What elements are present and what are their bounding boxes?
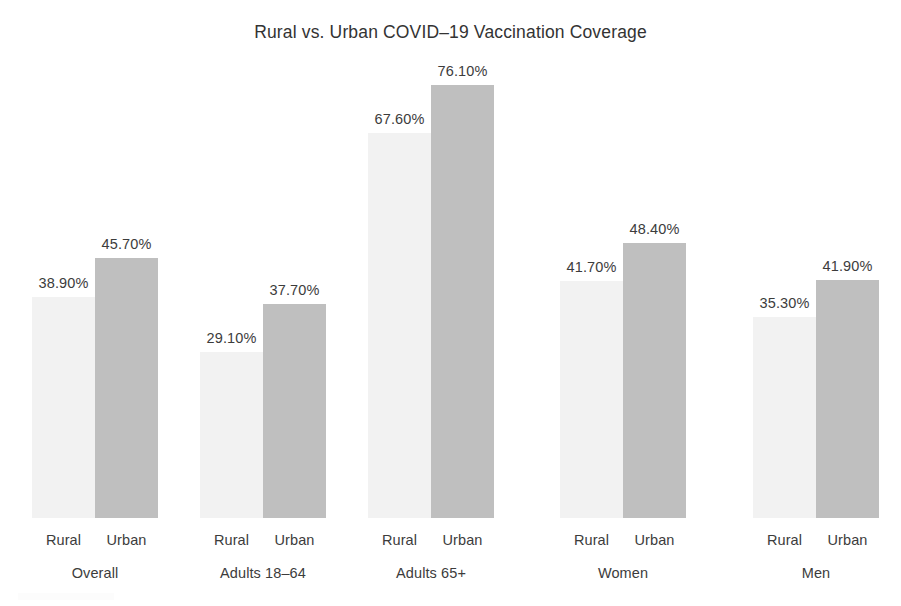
bar-value-label: 38.90% <box>20 275 107 291</box>
bar-adults-18-64-urban <box>263 304 326 519</box>
bar-women-rural <box>560 281 623 518</box>
group-label-men: Men <box>733 565 899 581</box>
bar-adults-18-64-rural <box>200 352 263 518</box>
bar-value-label: 76.10% <box>419 63 506 79</box>
bar-men-urban <box>816 280 879 518</box>
tick-label-urban: Urban <box>613 532 696 548</box>
bar-value-label: 45.70% <box>83 236 170 252</box>
group-label-overall: Overall <box>12 565 178 581</box>
bar-value-label: 41.70% <box>548 259 635 275</box>
bar-value-label: 67.60% <box>356 111 443 127</box>
tick-label-urban: Urban <box>253 532 336 548</box>
bar-value-label: 37.70% <box>251 282 338 298</box>
group-label-adults-65-: Adults 65+ <box>348 565 514 581</box>
bar-value-label: 41.90% <box>804 258 891 274</box>
bar-women-urban <box>623 243 686 518</box>
scan-artifact <box>18 593 114 600</box>
bar-chart: Rural vs. Urban COVID–19 Vaccination Cov… <box>0 0 901 606</box>
bar-value-label: 48.40% <box>611 221 698 237</box>
group-label-adults-18-64: Adults 18–64 <box>180 565 346 581</box>
tick-label-urban: Urban <box>85 532 168 548</box>
bar-value-label: 29.10% <box>188 330 275 346</box>
bar-overall-rural <box>32 297 95 518</box>
bar-men-rural <box>753 317 816 518</box>
bar-value-label: 35.30% <box>741 295 828 311</box>
bar-adults-65--rural <box>368 133 431 518</box>
group-label-women: Women <box>540 565 706 581</box>
bar-overall-urban <box>95 258 158 518</box>
tick-label-urban: Urban <box>806 532 889 548</box>
bar-adults-65--urban <box>431 85 494 518</box>
plot-area: 38.90%Rural45.70%UrbanOverall29.10%Rural… <box>0 0 901 606</box>
tick-label-urban: Urban <box>421 532 504 548</box>
